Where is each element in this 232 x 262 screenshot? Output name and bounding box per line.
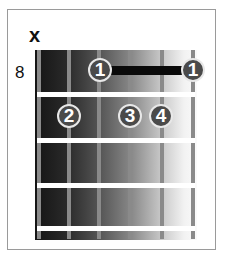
fretboard	[35, 50, 197, 240]
fret-line-2	[37, 138, 195, 143]
fret-line-1	[37, 92, 195, 97]
fret-line-3	[37, 183, 195, 188]
string-1	[37, 50, 41, 239]
finger-dot: 1	[181, 58, 205, 82]
finger-dot: 4	[149, 104, 173, 128]
start-fret-label: 8	[15, 63, 24, 83]
string-4	[128, 50, 132, 239]
fret-line-4	[37, 226, 195, 231]
string-2	[67, 50, 71, 239]
finger-dot: 3	[118, 104, 142, 128]
finger-dot: 2	[57, 104, 81, 128]
finger-dot: 1	[88, 58, 112, 82]
string-5	[160, 50, 164, 239]
muted-string-marker: x	[29, 24, 40, 47]
barre-bar	[100, 66, 192, 75]
